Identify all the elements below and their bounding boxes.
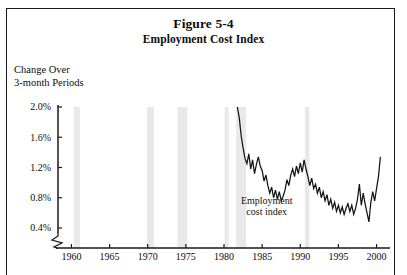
x-tick-label: 1975 xyxy=(176,251,196,262)
recession-bands-group xyxy=(74,107,310,248)
y-axis-break-symbol xyxy=(52,233,62,249)
y-tick-label: 0.8% xyxy=(30,192,51,203)
figure-container: Figure 5-4 Employment Cost Index Change … xyxy=(0,0,407,275)
recession-band xyxy=(74,107,80,248)
x-tick-label: 1970 xyxy=(138,251,158,262)
y-tick-label: 1.2% xyxy=(30,162,51,173)
axes-group xyxy=(52,105,390,249)
y-tick-label: 2.0% xyxy=(30,101,51,112)
x-tick-label: 1985 xyxy=(252,251,272,262)
x-tick-label: 2000 xyxy=(367,251,387,262)
recession-band xyxy=(225,107,229,248)
recession-band xyxy=(147,107,154,248)
series-annotation-label: Employment xyxy=(241,195,293,206)
y-tick-label: 0.4% xyxy=(30,222,51,233)
y-axis-ticks: 0.4%0.8%1.2%1.6%2.0% xyxy=(30,101,62,233)
x-tick-label: 1995 xyxy=(328,251,348,262)
x-axis-ticks: 196019651970197519801985199019952000 xyxy=(61,244,386,262)
recession-band xyxy=(305,107,310,248)
series-annotation-label: cost index xyxy=(246,206,287,217)
x-tick-label: 1960 xyxy=(61,251,81,262)
x-tick-label: 1980 xyxy=(214,251,234,262)
chart-plot: 0.4%0.8%1.2%1.6%2.0% 1960196519701975198… xyxy=(0,0,407,275)
y-tick-label: 1.6% xyxy=(30,132,51,143)
chart-annotations: Employmentcost index xyxy=(241,195,293,218)
x-tick-label: 1990 xyxy=(290,251,310,262)
x-tick-label: 1965 xyxy=(100,251,120,262)
recession-band xyxy=(236,107,246,248)
recession-band xyxy=(177,107,187,248)
